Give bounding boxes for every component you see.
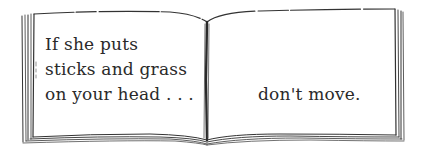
left-page-text: If she puts sticks and grass on your hea… xyxy=(45,32,194,107)
left-page-line-1: If she puts xyxy=(45,32,194,57)
left-page-line-2: sticks and grass xyxy=(45,57,194,82)
left-page-line-3: on your head . . . xyxy=(45,82,194,107)
right-page-text: don't move. xyxy=(258,82,361,107)
